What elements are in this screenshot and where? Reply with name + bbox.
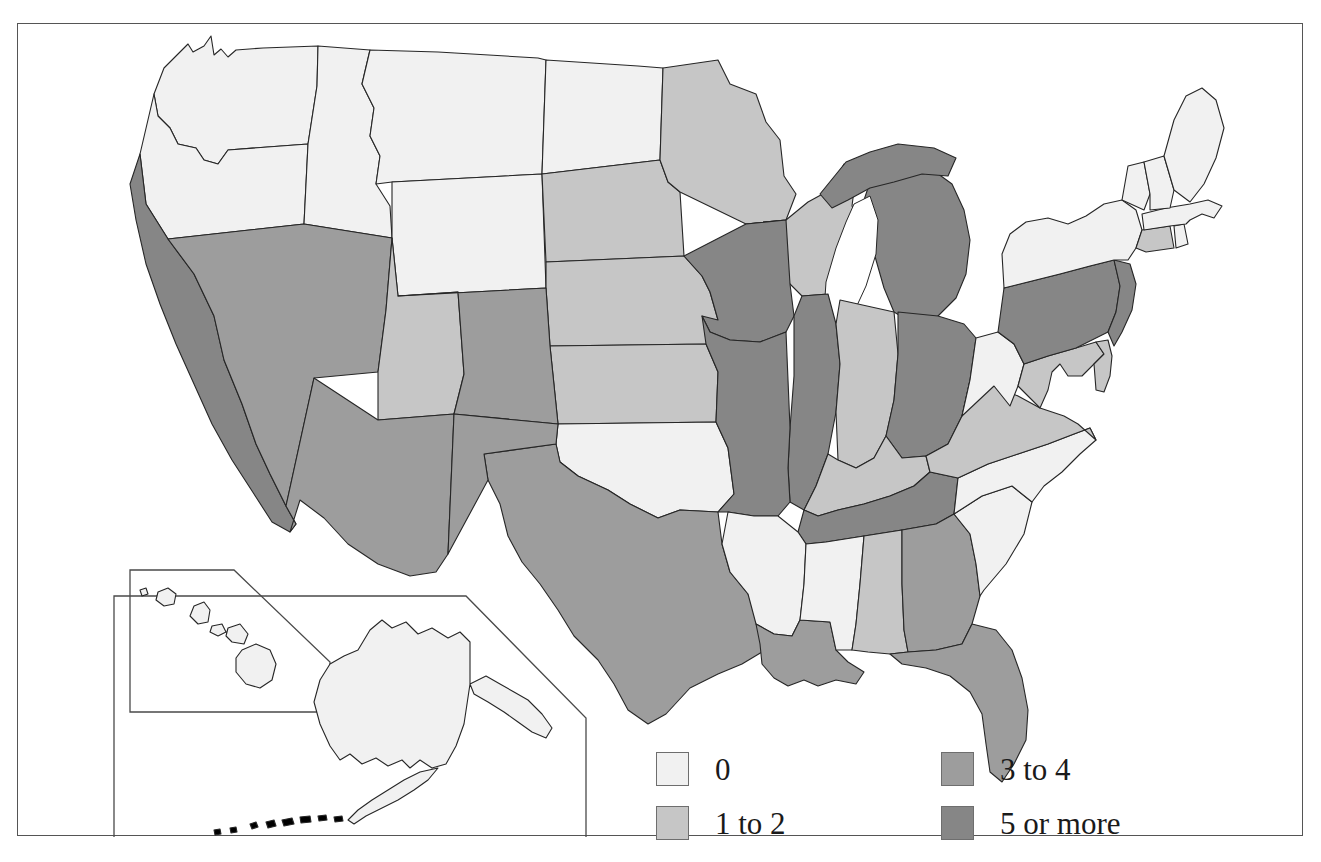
- legend-label-3-to-4: 3 to 4: [1000, 754, 1071, 785]
- alaska-aleutian-islands: [214, 815, 343, 835]
- state-WY[interactable]: [392, 174, 546, 296]
- legend-item-3-to-4[interactable]: 3 to 4: [941, 742, 1231, 796]
- hawaii-group: [140, 588, 276, 688]
- legend-swatch-5-or-more: [941, 806, 974, 840]
- map-frame: 0 1 to 2 3 to 4 5 or more: [17, 23, 1303, 836]
- map-legend: 0 1 to 2 3 to 4 5 or more: [656, 742, 1256, 850]
- legend-label-1-to-2: 1 to 2: [715, 808, 786, 839]
- figure-page: 0 1 to 2 3 to 4 5 or more: [0, 0, 1321, 862]
- legend-swatch-0: [656, 752, 689, 786]
- legend-label-0: 0: [715, 754, 731, 785]
- legend-column-left: 0 1 to 2: [656, 742, 946, 850]
- us-choropleth-map: [18, 24, 1304, 837]
- clipped-caption: [8, 0, 708, 8]
- state-KS[interactable]: [550, 344, 718, 424]
- state-HI[interactable]: [140, 588, 276, 688]
- state-AK[interactable]: [314, 620, 552, 824]
- legend-swatch-1-to-2: [656, 806, 689, 840]
- state-ME[interactable]: [1164, 88, 1224, 202]
- lower48-group: [130, 36, 1224, 782]
- state-SD[interactable]: [542, 160, 684, 262]
- legend-item-0[interactable]: 0: [656, 742, 946, 796]
- state-RI[interactable]: [1174, 224, 1188, 248]
- legend-column-right: 3 to 4 5 or more: [941, 742, 1231, 850]
- state-ND[interactable]: [542, 60, 663, 174]
- legend-item-1-to-2[interactable]: 1 to 2: [656, 796, 946, 850]
- state-CT[interactable]: [1136, 226, 1174, 252]
- state-NE[interactable]: [546, 256, 718, 346]
- legend-swatch-3-to-4: [941, 752, 974, 786]
- state-MT[interactable]: [362, 50, 546, 184]
- legend-item-5-or-more[interactable]: 5 or more: [941, 796, 1231, 850]
- legend-label-5-or-more: 5 or more: [1000, 808, 1121, 839]
